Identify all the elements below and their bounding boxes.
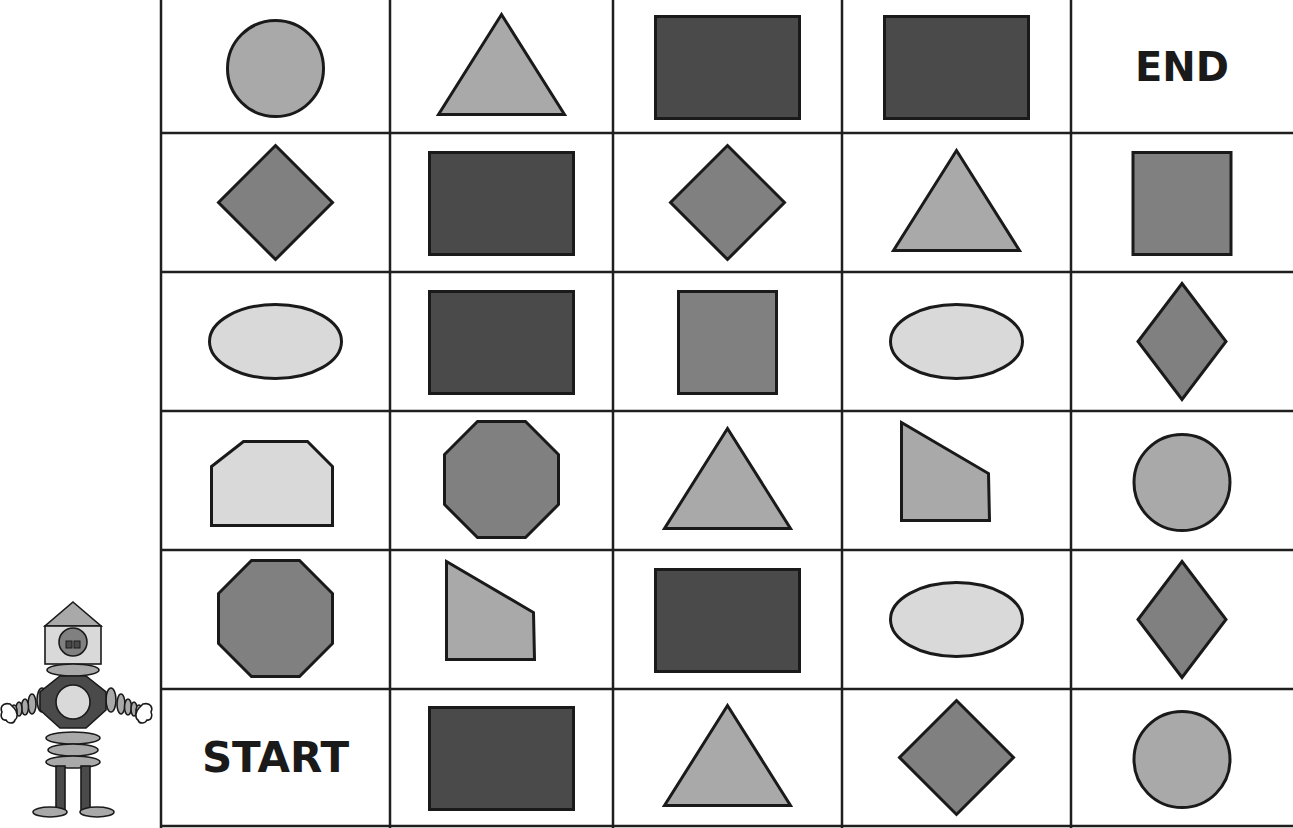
octagon-shape-icon [219,561,333,677]
board-cell-r5-c4[interactable] [842,550,1071,689]
square-shape-icon [1133,153,1231,255]
robot-character [0,596,165,828]
board-cell-r5-c5[interactable] [1071,550,1293,689]
circle-shape-icon [1134,712,1230,808]
circle-shape-icon [1134,435,1230,531]
robot-chest-icon [56,685,90,719]
ellipse-shape-icon [891,583,1023,657]
board-cell-r2-c1[interactable] [161,133,390,272]
rectangle-shape-icon [430,153,574,255]
board-cell-r4-c2[interactable] [390,411,613,550]
rectangle-shape-icon [430,292,574,394]
robot-left-foot-icon [33,807,67,817]
board-cell-r1-c1[interactable] [161,0,390,133]
ellipse-shape-icon [210,305,342,379]
board-cell-r1-c4[interactable] [842,0,1071,133]
rectangle-shape-icon [430,708,574,810]
start-label: START [202,733,350,782]
pentagon-house-shape-icon [212,442,333,526]
rectangle-shape-icon [656,17,800,119]
board-cell-r1-c3[interactable] [613,0,842,133]
board-cell-r3-c4[interactable] [842,272,1071,411]
rectangle-shape-icon [656,570,800,672]
board-cell-r3-c2[interactable] [390,272,613,411]
end-label: END [1135,44,1229,90]
board-cell-r4-c3[interactable] [613,411,842,550]
board-cell-r5-c2[interactable] [390,550,613,689]
board-cell-r3-c3[interactable] [613,272,842,411]
board-cell-r6-c3[interactable] [613,689,842,826]
board-cell-r4-c5[interactable] [1071,411,1293,550]
robot-roof-icon [45,602,101,626]
board-cell-r3-c1[interactable] [161,272,390,411]
board-cell-r2-c4[interactable] [842,133,1071,272]
board-cell-r6-c4[interactable] [842,689,1071,826]
board-cell-r5-c1[interactable] [161,550,390,689]
octagon-shape-icon [445,422,559,538]
square-shape-icon [679,292,777,394]
board-cell-r2-c2[interactable] [390,133,613,272]
board-cell-r6-c5[interactable] [1071,689,1293,826]
shape-maze-board: ENDSTART [0,0,1293,828]
board-cell-r6-c1[interactable]: START [161,689,390,826]
board-cell-r2-c5[interactable] [1071,133,1293,272]
robot-face-icon [59,628,87,656]
rectangle-shape-icon [885,17,1029,119]
board-cell-r6-c2[interactable] [390,689,613,826]
robot-right-foot-icon [80,807,114,817]
board-cell-r1-c5[interactable]: END [1071,0,1293,133]
board-cell-r3-c5[interactable] [1071,272,1293,411]
ellipse-shape-icon [891,305,1023,379]
board-cell-r1-c2[interactable] [390,0,613,133]
board-cell-r5-c3[interactable] [613,550,842,689]
board-cell-r2-c3[interactable] [613,133,842,272]
board-cell-r4-c1[interactable] [161,411,390,550]
circle-shape-icon [228,21,324,117]
board-cell-r4-c4[interactable] [842,411,1071,550]
